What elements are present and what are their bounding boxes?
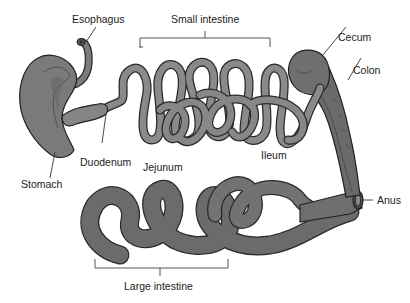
stomach	[20, 55, 108, 157]
digestive-tract-diagram: Esophagus Small intestine Cecum Colon St…	[0, 0, 410, 303]
label-anus: Anus	[377, 194, 401, 206]
small-intestine-bracket	[140, 31, 270, 47]
small-intestine	[106, 62, 320, 143]
label-jejunum: Jejunum	[143, 161, 183, 173]
large-intestine	[90, 184, 363, 255]
label-small-intestine: Small intestine	[171, 13, 239, 25]
label-stomach: Stomach	[21, 178, 63, 190]
esophagus	[76, 39, 89, 85]
label-ileum: Ileum	[261, 149, 287, 161]
label-colon: Colon	[353, 64, 381, 76]
label-large-intestine: Large intestine	[124, 280, 193, 292]
label-duodenum: Duodenum	[80, 156, 132, 168]
label-esophagus: Esophagus	[72, 13, 125, 25]
label-cecum: Cecum	[338, 31, 372, 43]
